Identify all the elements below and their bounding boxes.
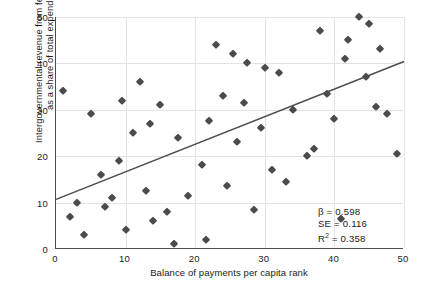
- data-point: [316, 26, 325, 35]
- data-point: [344, 36, 353, 45]
- data-point: [107, 193, 116, 202]
- x-tick-label: 40: [328, 253, 339, 264]
- data-point: [184, 191, 193, 200]
- data-point: [267, 166, 276, 175]
- data-point: [340, 54, 349, 63]
- statistics-annotation: β = 0.598 SE = 0.116 R2 = 0.358: [318, 206, 367, 246]
- data-point: [243, 59, 252, 68]
- data-point: [232, 138, 241, 147]
- data-point: [330, 115, 339, 124]
- data-point: [135, 77, 144, 86]
- data-point: [128, 128, 137, 137]
- r-squared-suffix: = 0.358: [329, 234, 366, 245]
- data-point: [173, 133, 182, 142]
- beta-statistic: β = 0.598: [318, 206, 367, 218]
- data-point: [302, 152, 311, 161]
- data-point: [239, 98, 248, 107]
- data-point: [250, 205, 259, 214]
- data-point: [142, 186, 151, 195]
- data-point: [260, 64, 269, 73]
- data-point: [375, 45, 384, 54]
- y-tick-label: 40: [22, 58, 48, 69]
- data-point: [212, 40, 221, 49]
- data-point: [118, 96, 127, 105]
- x-tick-label: 10: [119, 253, 130, 264]
- y-tick-label: 20: [22, 151, 48, 162]
- x-tick-label: 20: [189, 253, 200, 264]
- scatter-plot-figure: Intergovernmental revenue from federal g…: [0, 0, 428, 291]
- y-tick-label: 30: [22, 104, 48, 115]
- data-point: [205, 117, 214, 126]
- data-point: [97, 170, 106, 179]
- y-tick-label: 50: [22, 12, 48, 23]
- data-point: [198, 161, 207, 170]
- data-point: [72, 198, 81, 207]
- data-point: [86, 110, 95, 119]
- y-tick-label: 10: [22, 197, 48, 208]
- data-point: [149, 217, 158, 226]
- r-squared-statistic: R2 = 0.358: [318, 230, 367, 245]
- data-point: [229, 50, 238, 59]
- data-point: [372, 103, 381, 112]
- data-point: [274, 68, 283, 77]
- data-point: [257, 124, 266, 133]
- x-tick-label: 0: [52, 253, 57, 264]
- data-point: [323, 89, 332, 98]
- data-point: [79, 231, 88, 240]
- gridline-vertical: [404, 17, 405, 248]
- data-point: [58, 87, 67, 96]
- x-tick-label: 50: [398, 253, 409, 264]
- data-point: [145, 119, 154, 128]
- se-statistic: SE = 0.116: [318, 218, 367, 230]
- data-point: [222, 182, 231, 191]
- data-point: [382, 110, 391, 119]
- data-point: [393, 149, 402, 158]
- data-point: [163, 207, 172, 216]
- data-point: [100, 203, 109, 212]
- data-point: [365, 19, 374, 28]
- data-point: [156, 101, 165, 110]
- data-point: [219, 91, 228, 100]
- data-point: [170, 240, 179, 249]
- data-point: [114, 156, 123, 165]
- data-point: [65, 212, 74, 221]
- data-point: [288, 105, 297, 114]
- data-point: [309, 145, 318, 154]
- data-point: [121, 226, 130, 235]
- x-tick-label: 30: [258, 253, 269, 264]
- data-point: [201, 235, 210, 244]
- x-axis-title: Balance of payments per capita rank: [55, 267, 403, 278]
- data-point: [281, 177, 290, 186]
- data-point: [361, 73, 370, 82]
- data-point: [354, 12, 363, 21]
- y-tick-label: 0: [22, 244, 48, 255]
